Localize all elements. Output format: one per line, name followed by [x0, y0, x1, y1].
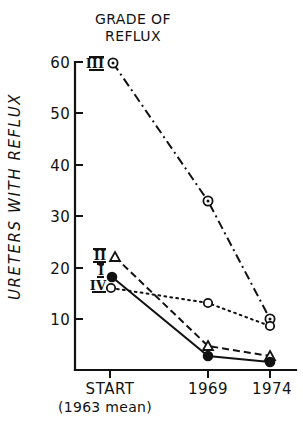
y-tick-label-10: 10	[50, 311, 70, 329]
series-IV-marker-start	[107, 284, 115, 292]
series-IV-line	[111, 288, 270, 326]
series-label-III: III	[86, 56, 104, 71]
y-tick-label-30: 30	[50, 208, 70, 226]
y-axis-ticks	[75, 62, 83, 319]
series-III-marker-start	[108, 58, 117, 67]
y-tick-label-50: 50	[50, 105, 70, 123]
series-I-line	[112, 277, 270, 362]
chart-figure: GRADE OF REFLUX URETERS WITH REFLUX 60 5…	[0, 0, 303, 431]
series-label-II: II	[94, 248, 106, 263]
series-III-line	[113, 63, 270, 319]
series-III	[108, 58, 274, 323]
series-label-I: I	[98, 263, 104, 278]
series-label-IV: IV	[90, 278, 107, 293]
y-axis-title: URETERS WITH REFLUX	[6, 93, 24, 300]
chart-title-line2: REFLUX	[105, 28, 161, 44]
series-II-line	[115, 257, 270, 356]
series-I-marker-start	[108, 273, 117, 282]
x-tick-label-1969: 1969	[188, 380, 228, 398]
series-IV-marker-1969	[204, 299, 212, 307]
y-tick-label-40: 40	[50, 157, 70, 175]
x-axis-ticks	[110, 370, 270, 378]
x-tick-sublabel-start: (1963 mean)	[58, 399, 152, 415]
series-I-marker-1969	[204, 352, 213, 361]
series-I-marker-1974	[266, 358, 275, 367]
series-IV-marker-1974	[266, 322, 274, 330]
y-tick-label-20: 20	[50, 260, 70, 278]
x-tick-label-1974: 1974	[252, 380, 292, 398]
x-tick-label-start: START	[86, 380, 135, 398]
series-IV	[107, 284, 274, 330]
chart-title-line1: GRADE OF	[95, 11, 171, 27]
line-chart: GRADE OF REFLUX URETERS WITH REFLUX 60 5…	[0, 0, 303, 431]
series-II-marker-start	[110, 252, 120, 261]
y-tick-label-60: 60	[50, 54, 70, 72]
series-III-marker-1969	[203, 196, 212, 205]
